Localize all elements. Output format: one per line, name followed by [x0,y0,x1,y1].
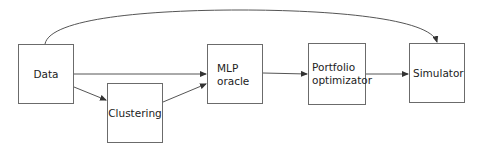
node-data: Data [18,44,74,104]
node-clustering: Clustering [107,83,163,143]
node-clustering-label: Clustering [108,107,162,120]
node-mlp-oracle: MLP oracle [207,44,263,104]
edge-clustering-to-mlp [163,84,206,102]
edge-data-to-clustering [74,87,106,100]
node-portfolio-optimizator-label: Portfolio optimizator [312,61,372,87]
node-simulator: Simulator [409,43,465,103]
edge-data-to-simulator [45,10,437,44]
edge-mlp-to-portfolio [263,73,307,74]
node-data-label: Data [33,68,58,81]
node-simulator-label: Simulator [413,67,464,80]
node-mlp-oracle-label: MLP oracle [217,62,249,88]
node-portfolio-optimizator: Portfolio optimizator [308,43,366,105]
